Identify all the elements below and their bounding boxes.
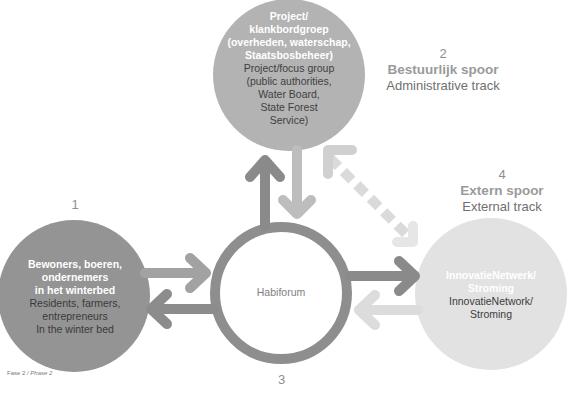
track-4-number: 4	[437, 167, 567, 183]
phase-label-en: Phase 2	[30, 370, 52, 376]
top-node-title-nl: Project/ klankbordgroep (overheden, wate…	[214, 10, 364, 62]
track-4-title-en: External track	[437, 199, 567, 215]
track-4-title-nl: Extern spoor	[437, 183, 567, 199]
track-2-title-en: Administrative track	[368, 78, 518, 94]
hub-label: Habiforum	[231, 286, 331, 298]
phase-footer: Fase 2 / Phase 2	[7, 370, 52, 376]
track-2-number: 2	[368, 46, 518, 62]
left-node-title-en: Residents, farmers, entrepreneurs In the…	[0, 297, 150, 336]
right-node-title-nl: InnovatieNetwerk/ Stroming	[416, 269, 566, 295]
track-3-number: 3	[278, 372, 285, 387]
arrow-top-right-dashed	[330, 158, 410, 238]
right-node-title-en: InnovatieNetwork/ Stroming	[416, 295, 566, 321]
track-1-number: 1	[55, 197, 95, 213]
phase-label-nl: Fase 2 /	[7, 370, 30, 376]
track-2-label: 2 Bestuurlijk spoor Administrative track	[368, 46, 518, 94]
left-node-text: Bewoners, boeren, ondernemers in het win…	[0, 258, 150, 336]
top-node-title-en: Project/focus group (public authorities,…	[214, 62, 364, 127]
track-4-label: 4 Extern spoor External track	[437, 167, 567, 215]
track-1-label: 1	[55, 197, 95, 213]
arrow-left-to-hub	[145, 258, 206, 288]
top-node-text: Project/ klankbordgroep (overheden, wate…	[214, 10, 364, 127]
arrow-hub-to-left	[151, 294, 214, 324]
arrow-hub-to-top	[250, 160, 280, 226]
left-node-title-nl: Bewoners, boeren, ondernemers in het win…	[0, 258, 150, 297]
arrow-hub-to-right	[350, 261, 415, 291]
right-node-text: InnovatieNetwerk/ Stroming InnovatieNetw…	[416, 269, 566, 321]
arrow-top-to-hub	[283, 150, 311, 214]
track-2-title-nl: Bestuurlijk spoor	[368, 62, 518, 78]
arrow-right-to-hub	[359, 295, 418, 325]
